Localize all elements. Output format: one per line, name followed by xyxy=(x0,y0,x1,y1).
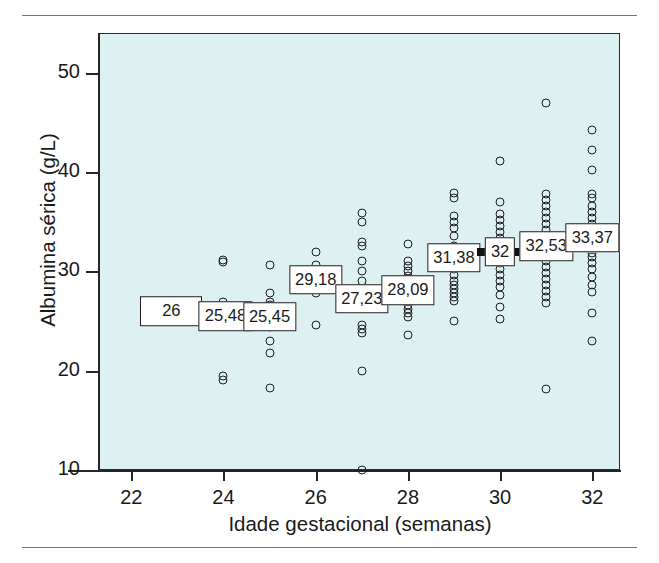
x-tick-label-30: 30 xyxy=(478,486,522,509)
x-axis-title: Idade gestacional (semanas) xyxy=(130,512,590,536)
y-axis-line xyxy=(98,33,100,471)
data-point xyxy=(496,291,505,300)
x-tick-label-24: 24 xyxy=(201,486,245,509)
y-tick-label-10: 10 xyxy=(34,457,80,480)
data-point xyxy=(450,193,459,202)
data-point xyxy=(357,208,366,217)
data-point xyxy=(496,315,505,324)
x-tick-30 xyxy=(500,470,502,481)
x-tick-label-22: 22 xyxy=(109,486,153,509)
data-point xyxy=(265,336,274,345)
data-point xyxy=(450,317,459,326)
data-point xyxy=(403,330,412,339)
data-point xyxy=(588,166,597,175)
data-point xyxy=(357,366,366,375)
x-tick-label-28: 28 xyxy=(386,486,430,509)
data-point xyxy=(542,98,551,107)
data-point xyxy=(588,336,597,345)
data-point xyxy=(588,146,597,155)
x-tick-28 xyxy=(408,470,410,481)
data-point xyxy=(265,383,274,392)
data-point xyxy=(588,126,597,135)
y-tick-40 xyxy=(86,172,98,174)
mean-value-label: 31,38 xyxy=(427,243,480,273)
x-tick-32 xyxy=(592,470,594,481)
data-point xyxy=(496,157,505,166)
data-point xyxy=(357,466,366,475)
mean-value-label: 28,09 xyxy=(381,276,434,306)
data-point xyxy=(357,241,366,250)
data-point xyxy=(219,258,228,267)
y-tick-10 xyxy=(86,470,98,472)
x-tick-22 xyxy=(131,470,133,481)
data-point xyxy=(496,303,505,312)
y-tick-20 xyxy=(86,371,98,373)
x-tick-24 xyxy=(223,470,225,481)
data-point xyxy=(496,197,505,206)
x-tick-26 xyxy=(316,470,318,481)
figure-container: 1020304050222426283032 2625,4825,4529,18… xyxy=(0,0,659,563)
data-point xyxy=(450,297,459,306)
y-axis-title: Albumina sérica (g/L) xyxy=(36,80,60,380)
mean-value-label: 25,45 xyxy=(243,302,296,332)
data-point xyxy=(265,289,274,298)
data-point xyxy=(588,309,597,318)
data-point xyxy=(542,384,551,393)
data-point xyxy=(357,267,366,276)
x-tick-label-26: 26 xyxy=(294,486,338,509)
data-point xyxy=(311,247,320,256)
data-point xyxy=(450,231,459,240)
data-point xyxy=(403,239,412,248)
data-point xyxy=(588,288,597,297)
data-point xyxy=(311,320,320,329)
data-point xyxy=(542,299,551,308)
data-point xyxy=(357,328,366,337)
mean-value-label: 26 xyxy=(140,296,202,326)
data-point xyxy=(403,313,412,322)
bottom-divider-rule xyxy=(22,547,637,548)
x-tick-label-32: 32 xyxy=(570,486,614,509)
y-tick-30 xyxy=(86,271,98,273)
data-point xyxy=(357,217,366,226)
x-axis-line xyxy=(68,470,621,472)
data-point xyxy=(265,348,274,357)
data-point xyxy=(219,375,228,384)
mean-value-label: 33,37 xyxy=(566,223,619,253)
top-divider-rule xyxy=(22,15,637,16)
y-tick-50 xyxy=(86,73,98,75)
mean-value-label: 32 xyxy=(485,237,515,267)
data-point xyxy=(357,257,366,266)
data-point xyxy=(265,261,274,270)
